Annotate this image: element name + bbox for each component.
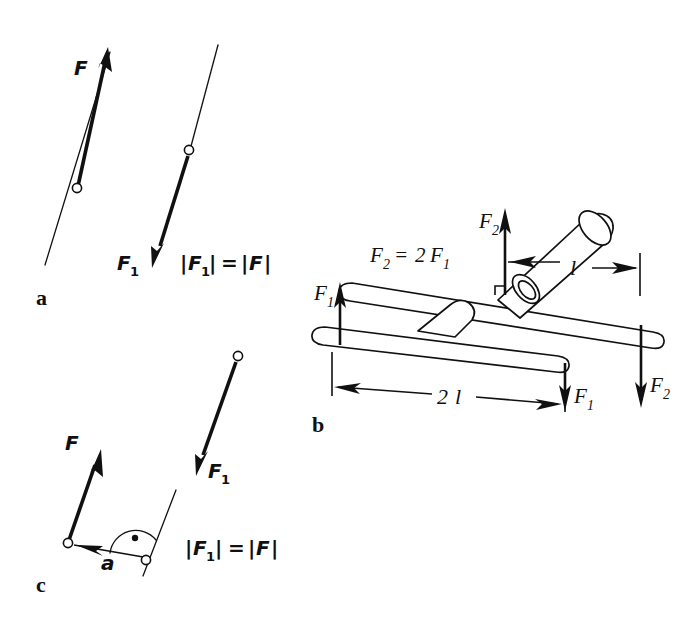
panel-b: l 2 l F 2 = 2 F 1 F 2 <box>312 205 670 437</box>
panel-a-eq-rhs-symbol: F <box>249 251 263 275</box>
panel-a-application-point-right <box>184 145 193 154</box>
panel-c-eq-bar-close-rhs: | <box>271 536 278 560</box>
panel-c-perpendicular-dot <box>132 535 138 541</box>
panel-a-letter: a <box>36 285 47 310</box>
panel-a-eq-lhs-symbol: F <box>188 251 202 275</box>
panel-b-label-f2-up-symbol: F <box>478 209 492 233</box>
panel-c-eq-lhs-symbol: F <box>193 536 207 560</box>
panel-b-label-f1-up-subscript: 1 <box>327 295 334 310</box>
panel-b-relation: F 2 = 2 F 1 <box>369 243 450 272</box>
panel-c-label-force-f1-subscript: 1 <box>221 472 230 487</box>
panel-c-eq-equals: = <box>228 536 245 560</box>
panel-b-relation-subscript-2: 2 <box>383 257 390 272</box>
panel-c-eq-bar-close-lhs: | <box>215 536 222 560</box>
panel-c-force-f1-arrowhead <box>195 451 208 476</box>
panel-b-dim-2l-arrowhead-right <box>535 399 562 410</box>
panel-c-perpendicular-arc <box>110 530 156 553</box>
panel-b-relation-equals: = <box>394 243 408 267</box>
figure-root: F F 1 | F 1 | = | F | a <box>0 0 695 617</box>
panel-b-label-f2-down-symbol: F <box>649 373 663 397</box>
panel-a-force-f-shaft <box>78 62 105 186</box>
panel-b-dim-2l-symbol: l <box>455 384 461 409</box>
panel-a-eq-bar-open: | <box>180 251 187 275</box>
panel-c: F F 1 a | F 1 | = | F | c <box>36 351 278 597</box>
panel-a-eq-bar-close-rhs: | <box>264 251 271 275</box>
panel-a: F F 1 | F 1 | = | F | a <box>36 45 271 310</box>
panel-c-force-f1-tail-point <box>233 351 242 360</box>
panel-a-application-point-left <box>72 183 81 192</box>
panel-b-label-f1-up-symbol: F <box>313 281 327 305</box>
panel-b-relation-symbol-f2: F <box>369 243 383 267</box>
panel-b-relation-factor: 2 <box>415 243 426 267</box>
panel-c-application-point-original <box>63 538 72 547</box>
panel-c-eq-bar-open: | <box>185 536 192 560</box>
panel-a-equation: | F 1 | = | F | <box>180 251 271 279</box>
panel-c-force-f1-shaft <box>203 362 236 455</box>
panel-c-letter: c <box>36 572 46 597</box>
panel-b-label-f2-down: F 2 <box>649 373 670 402</box>
panel-c-eq-rhs-symbol: F <box>256 536 270 560</box>
panel-b-label-f1-down-symbol: F <box>573 384 587 408</box>
panel-c-application-point-shifted <box>141 555 150 564</box>
panel-b-label-f2-up-subscript: 2 <box>492 223 499 238</box>
panel-b-label-f1-up: F 1 <box>313 281 334 310</box>
panel-a-eq-equals: = <box>221 251 238 275</box>
panel-b-dim-2l-number: 2 <box>437 384 448 409</box>
panel-b-right-angle-marker <box>495 286 504 295</box>
panel-b-letter: b <box>312 412 324 437</box>
panel-b-label-f2-up: F 2 <box>478 209 499 238</box>
panel-a-right-line-of-action <box>190 45 218 150</box>
panel-a-force-f1-arrowhead <box>151 243 164 268</box>
panel-b-label-f1-down-subscript: 1 <box>587 398 594 413</box>
panel-a-force-f1-shaft <box>160 156 188 246</box>
panel-a-eq-bar-close-lhs: | <box>209 251 216 275</box>
panel-b-label-f2-down-subscript: 2 <box>663 387 670 402</box>
panel-b-label-f1-down: F 1 <box>573 384 594 413</box>
panel-c-label-force-f: F <box>65 431 79 455</box>
figure-canvas: F F 1 | F 1 | = | F | a <box>0 0 695 617</box>
panel-c-eq-lhs-subscript: 1 <box>206 549 215 564</box>
panel-c-label-offset-a: a <box>101 551 115 575</box>
panel-c-label-force-f1: F <box>208 459 222 483</box>
panel-a-label-force-f1-subscript: 1 <box>130 264 139 279</box>
panel-c-force-f-shaft <box>69 465 95 540</box>
panel-a-label-force-f1: F <box>117 251 131 275</box>
panel-a-label-force-f: F <box>74 56 88 80</box>
panel-c-eq-bar-open-rhs: | <box>248 536 255 560</box>
panel-c-equation: | F 1 | = | F | <box>185 536 278 564</box>
panel-b-relation-subscript-1: 1 <box>443 257 450 272</box>
panel-b-relation-symbol-f1: F <box>429 243 443 267</box>
panel-a-eq-bar-open-rhs: | <box>241 251 248 275</box>
panel-b-dim-l-label: l <box>570 255 576 280</box>
